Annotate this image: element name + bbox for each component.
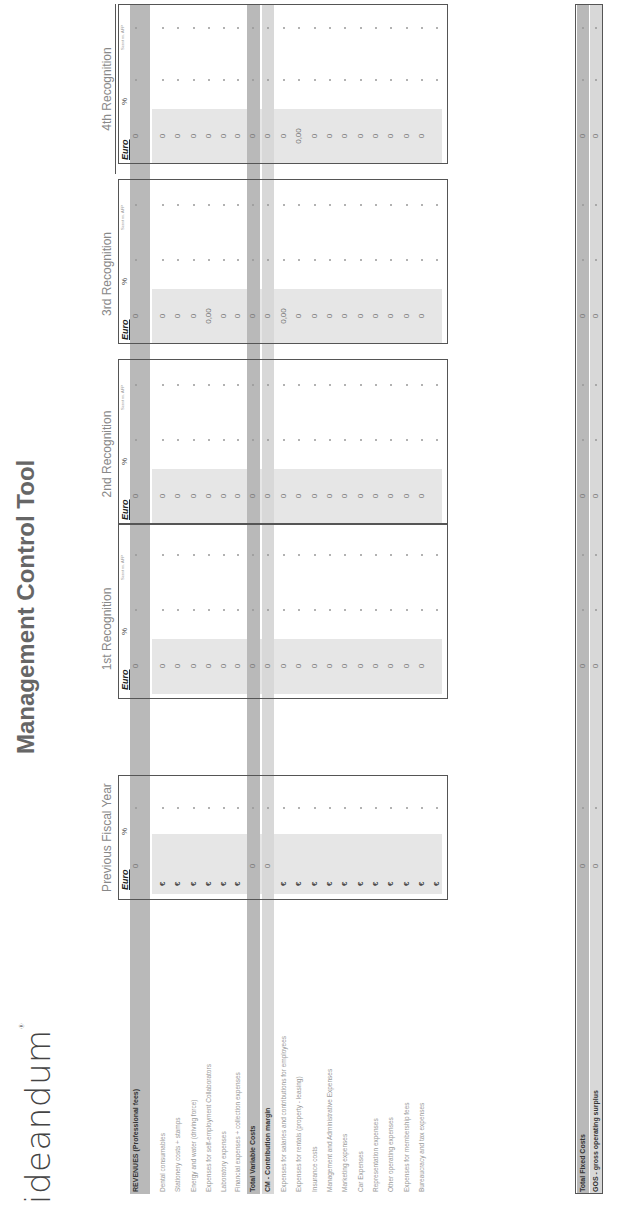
prev-euro-cell[interactable]: € [356,882,365,886]
prev-euro-cell[interactable]: € [432,882,441,886]
r1-euro-cell[interactable]: 0 [248,654,257,678]
prev-euro-cell[interactable]: 0 [248,854,257,878]
r2-euro-cell[interactable]: 0 [578,484,587,508]
prev-pct-cell[interactable] [595,807,597,809]
r2-euro-cell[interactable]: 0 [371,484,380,508]
r3-euro-cell[interactable]: 0 [294,304,303,328]
prev-pct-cell[interactable] [237,807,239,809]
r4-sc-cell[interactable] [360,27,362,29]
r1-euro-cell[interactable]: 0 [189,654,198,678]
r2-euro-cell[interactable]: 0 [131,484,140,508]
r4-sc-cell[interactable] [208,27,210,29]
prev-pct-cell[interactable] [390,807,392,809]
r4-sc-cell[interactable] [329,27,331,29]
prev-pct-cell[interactable] [162,807,164,809]
prev-pct-cell[interactable] [582,807,584,809]
r2-euro-cell[interactable]: 0 [219,484,228,508]
r3-euro-cell[interactable]: 0 [386,304,395,328]
r1-euro-cell[interactable]: 0 [173,654,182,678]
r1-euro-cell[interactable]: 0 [325,654,334,678]
r1-euro-cell[interactable]: 0 [279,654,288,678]
r3-euro-cell[interactable]: 0 [173,304,182,328]
r4-euro-cell[interactable]: 0 [189,124,198,148]
r4-sc-cell[interactable] [135,27,137,29]
r4-sc-cell[interactable] [344,27,346,29]
prev-euro-cell[interactable]: € [402,882,411,886]
r2-euro-cell[interactable]: 0 [591,484,600,508]
prev-euro-cell[interactable]: € [310,882,319,886]
prev-pct-cell[interactable] [135,807,137,809]
r2-euro-cell[interactable]: 0 [279,484,288,508]
r4-sc-cell[interactable] [193,27,195,29]
r1-euro-cell[interactable]: 0 [417,654,426,678]
r3-euro-cell[interactable]: 0 [233,304,242,328]
r4-sc-cell[interactable] [177,27,179,29]
r4-euro-cell[interactable]: 0 [402,124,411,148]
r2-euro-cell[interactable]: 0 [248,484,257,508]
r2-euro-cell[interactable]: 0 [310,484,319,508]
r3-euro-cell[interactable]: 0 [158,304,167,328]
prev-pct-cell[interactable] [406,807,408,809]
r4-euro-cell[interactable]: 0 [356,124,365,148]
r4-euro-cell[interactable]: 0 [263,124,272,148]
r4-euro-cell[interactable]: 0 [173,124,182,148]
r4-sc-cell[interactable] [406,27,408,29]
prev-pct-cell[interactable] [223,807,225,809]
r3-euro-cell[interactable]: 0 [417,304,426,328]
prev-euro-cell[interactable]: € [233,882,242,886]
prev-euro-cell[interactable]: € [294,882,303,886]
r1-euro-cell[interactable]: 0 [591,654,600,678]
prev-euro-cell[interactable]: € [340,882,349,886]
r1-euro-cell[interactable]: 0 [340,654,349,678]
r4-sc-cell[interactable] [582,27,584,29]
r4-euro-cell[interactable]: 0 [417,124,426,148]
prev-pct-cell[interactable] [375,807,377,809]
r3-euro-cell[interactable]: 0 [356,304,365,328]
r4-euro-cell[interactable]: 0 [371,124,380,148]
r3-euro-cell[interactable]: 0 [371,304,380,328]
prev-pct-cell[interactable] [208,807,210,809]
r4-sc-cell[interactable] [267,27,269,29]
prev-pct-cell[interactable] [314,807,316,809]
r3-euro-cell[interactable]: 0,00 [204,304,213,328]
prev-pct-cell[interactable] [360,807,362,809]
prev-pct-cell[interactable] [298,807,300,809]
r2-euro-cell[interactable]: 0 [204,484,213,508]
prev-euro-cell[interactable]: 0 [591,854,600,878]
r2-euro-cell[interactable]: 0 [325,484,334,508]
r2-euro-cell[interactable]: 0 [158,484,167,508]
r3-euro-cell[interactable]: 0 [340,304,349,328]
r4-euro-cell[interactable]: 0 [131,124,140,148]
prev-euro-cell[interactable]: € [371,882,380,886]
r3-euro-cell[interactable]: 0 [578,304,587,328]
r3-euro-cell[interactable]: 0 [131,304,140,328]
prev-euro-cell[interactable]: 0 [263,854,272,878]
r3-euro-cell[interactable]: 0 [402,304,411,328]
r4-sc-cell[interactable] [421,27,423,29]
prev-pct-cell[interactable] [436,807,438,809]
prev-euro-cell[interactable]: € [219,882,228,886]
r4-euro-cell[interactable]: 0 [325,124,334,148]
prev-pct-cell[interactable] [329,807,331,809]
r1-euro-cell[interactable]: 0 [219,654,228,678]
r4-sc-cell[interactable] [252,27,254,29]
r3-euro-cell[interactable]: 0 [310,304,319,328]
r2-euro-cell[interactable]: 0 [173,484,182,508]
r1-euro-cell[interactable]: 0 [578,654,587,678]
r2-euro-cell[interactable]: 0 [340,484,349,508]
r1-euro-cell[interactable]: 0 [371,654,380,678]
prev-pct-cell[interactable] [193,807,195,809]
prev-pct-cell[interactable] [252,807,254,809]
r4-euro-cell[interactable]: 0 [204,124,213,148]
r3-euro-cell[interactable]: 0 [189,304,198,328]
r1-euro-cell[interactable]: 0 [310,654,319,678]
prev-euro-cell[interactable]: € [204,882,213,886]
r2-euro-cell[interactable]: 0 [386,484,395,508]
prev-euro-cell[interactable]: € [189,882,198,886]
r4-euro-cell[interactable]: 0 [578,124,587,148]
r4-euro-cell[interactable]: 0 [219,124,228,148]
r2-euro-cell[interactable]: 0 [417,484,426,508]
r4-sc-cell[interactable] [375,27,377,29]
r4-euro-cell[interactable]: 0 [591,124,600,148]
r4-sc-cell[interactable] [390,27,392,29]
